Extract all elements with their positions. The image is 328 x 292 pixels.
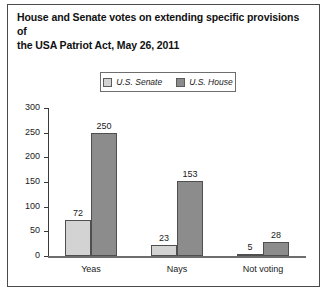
bar-value-label: 5 (247, 242, 252, 252)
y-axis-tick-label: 100 (25, 201, 40, 211)
y-axis-tick-label: 250 (25, 127, 40, 137)
bar-wrapper: 153 (177, 108, 203, 256)
bar-value-label: 72 (73, 208, 83, 218)
bar[interactable] (65, 220, 91, 256)
bar[interactable] (263, 242, 289, 256)
chart-figure: House and Senate votes on extending spec… (0, 0, 328, 292)
bar[interactable] (91, 133, 117, 256)
bar-wrapper: 5 (237, 108, 263, 256)
bar-wrapper: 28 (263, 108, 289, 256)
chart-title-line-1: House and Senate votes on extending spec… (17, 11, 299, 37)
legend-item-house: U.S. House (176, 77, 232, 87)
senate-swatch-icon (103, 78, 112, 87)
house-swatch-icon (176, 78, 185, 87)
bar[interactable] (177, 181, 203, 256)
y-axis-tick-label: 50 (30, 225, 40, 235)
bar-value-label: 153 (182, 169, 197, 179)
legend-label-senate: U.S. Senate (116, 77, 162, 87)
bar-wrapper: 250 (91, 108, 117, 256)
bar-value-label: 28 (271, 230, 281, 240)
category-label: Not voting (243, 264, 284, 274)
chart-title: House and Senate votes on extending spec… (17, 10, 305, 52)
legend-item-senate: U.S. Senate (103, 77, 162, 87)
bar[interactable] (151, 245, 177, 256)
bar-group: 72250 (48, 108, 134, 256)
bar-value-label: 23 (159, 233, 169, 243)
y-axis-tick: 0 (44, 256, 48, 257)
legend-label-house: U.S. House (189, 77, 232, 87)
bar-value-label: 250 (96, 121, 111, 131)
chart-title-line-2: the USA Patriot Act, May 26, 2011 (17, 39, 179, 51)
x-axis-line (48, 256, 306, 258)
bar-wrapper: 72 (65, 108, 91, 256)
chart-legend: U.S. Senate U.S. House (100, 72, 236, 92)
y-axis-tick-label: 0 (35, 250, 40, 260)
category-label: Nays (167, 264, 188, 274)
y-axis-tick-label: 300 (25, 102, 40, 112)
bar-group: 528 (220, 108, 306, 256)
bar[interactable] (237, 254, 263, 256)
bar-wrapper: 23 (151, 108, 177, 256)
plot-area: 050100150200250300 7225023153528 YeasNay… (48, 108, 306, 256)
y-axis-tick-label: 200 (25, 151, 40, 161)
bar-group: 23153 (134, 108, 220, 256)
y-axis-tick-label: 150 (25, 176, 40, 186)
category-label: Yeas (81, 264, 101, 274)
